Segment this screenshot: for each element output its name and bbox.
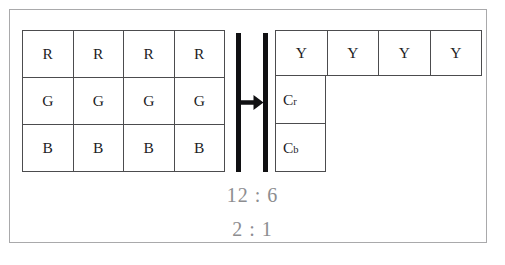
rgb-cell-g-2: G bbox=[74, 78, 125, 125]
rgb-cell-b-1: B bbox=[23, 125, 74, 172]
ratio-caption-secondary: 2 : 1 bbox=[0, 219, 505, 239]
luma-row: Y Y Y Y bbox=[275, 30, 482, 76]
ycc-cell-cb: Cb bbox=[275, 124, 326, 172]
ycc-cell-y-1: Y bbox=[276, 31, 328, 76]
rgb-cell-g-1: G bbox=[23, 78, 74, 125]
rgb-cell-r-1: R bbox=[23, 31, 74, 78]
ycc-sample-grid: Y Y Y Y Cr Cb bbox=[275, 30, 482, 172]
ycc-cell-y-4: Y bbox=[431, 31, 483, 76]
figure-canvas: R R R R G G G G B B B B Y Y Y Y Cr Cb bbox=[0, 0, 505, 265]
rgb-sample-grid: R R R R G G G G B B B B bbox=[22, 30, 225, 172]
rgb-cell-b-2: B bbox=[74, 125, 125, 172]
rgb-cell-r-2: R bbox=[74, 31, 125, 78]
chroma-cr-subscript: r bbox=[293, 97, 297, 108]
rgb-cell-g-4: G bbox=[175, 78, 226, 125]
rgb-cell-r-3: R bbox=[124, 31, 175, 78]
rgb-cell-b-3: B bbox=[124, 125, 175, 172]
chroma-cb-subscript: b bbox=[293, 145, 298, 156]
chroma-cb-base: C bbox=[283, 140, 293, 156]
rgb-cell-g-3: G bbox=[124, 78, 175, 125]
chroma-cr-base: C bbox=[283, 92, 293, 108]
ycc-cell-y-2: Y bbox=[328, 31, 380, 76]
rgb-cell-r-4: R bbox=[175, 31, 226, 78]
ycc-cell-y-3: Y bbox=[379, 31, 431, 76]
right-arrow-icon bbox=[240, 94, 264, 111]
transform-separator bbox=[234, 33, 270, 172]
ycc-cell-cr: Cr bbox=[275, 76, 326, 124]
rgb-cell-b-4: B bbox=[175, 125, 226, 172]
ratio-caption-primary: 12 : 6 bbox=[0, 185, 505, 205]
